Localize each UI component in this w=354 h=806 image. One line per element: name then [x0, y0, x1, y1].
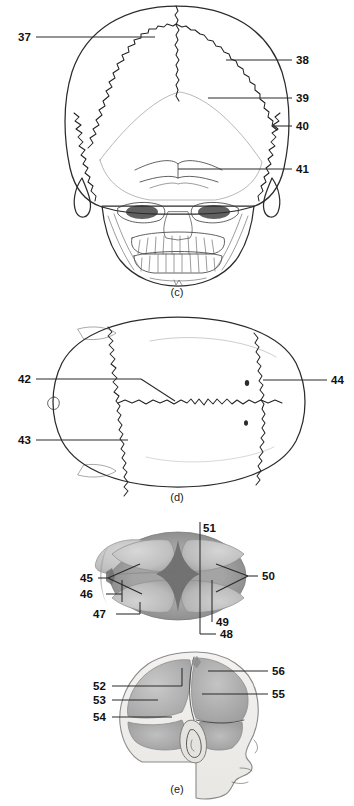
panel-d-illustration: 42 43 44 [0, 305, 354, 510]
label-51: 51 [203, 522, 216, 534]
panel-c-illustration: 37 38 39 40 41 [0, 0, 354, 310]
zygomatic-arch-top [78, 327, 116, 477]
label-39: 39 [296, 92, 309, 104]
panel-c-posterior-skull: 37 38 39 40 41 [0, 0, 354, 310]
label-45: 45 [80, 572, 93, 584]
label-50: 50 [262, 570, 275, 582]
label-49: 49 [216, 616, 229, 628]
label-42: 42 [18, 373, 31, 385]
parietal-foramen-lower [244, 420, 248, 426]
label-41: 41 [296, 163, 309, 175]
label-52: 52 [93, 680, 106, 692]
caption-panel-e: (e) [0, 783, 354, 795]
label-46: 46 [80, 588, 93, 600]
caption-panel-d: (d) [0, 491, 354, 503]
labels-panel-d: 42 43 44 [18, 373, 344, 446]
label-56: 56 [272, 665, 285, 677]
frontal-bone-lateral [128, 660, 191, 718]
label-40: 40 [296, 120, 309, 132]
caption-panel-c: (c) [0, 286, 354, 298]
leader-lines-panel-c [36, 37, 292, 169]
mastoid-process-left [74, 178, 90, 217]
sagittal-suture-superior [118, 399, 282, 405]
facial-skeleton [102, 202, 254, 286]
nose-contour [254, 740, 258, 753]
labels-panel-c: 37 38 39 40 41 [18, 31, 309, 175]
label-48: 48 [220, 628, 233, 640]
label-43: 43 [18, 434, 31, 446]
label-37: 37 [18, 31, 31, 43]
label-55: 55 [272, 688, 285, 700]
lambdoid-suture [88, 24, 277, 148]
label-44: 44 [331, 374, 344, 386]
label-53: 53 [93, 694, 106, 706]
fetal-skull-lateral: 52 53 54 56 55 [93, 652, 285, 799]
coronal-suture [108, 327, 128, 496]
panel-e-illustration: 51 45 46 47 50 49 48 [0, 510, 354, 806]
anatomy-figure: 37 38 39 40 41 (c) [0, 0, 354, 806]
occipital-bone [100, 92, 262, 200]
lambdoid-suture-superior [254, 333, 265, 485]
label-47: 47 [93, 608, 106, 620]
label-38: 38 [296, 54, 309, 66]
mastoid-process-right [263, 178, 279, 217]
panel-d-superior-skull: 42 43 44 [0, 305, 354, 510]
occipital-protuberance [135, 161, 222, 188]
parietal-foramen-upper [245, 380, 249, 386]
panel-e-fetal-skull: 51 45 46 47 50 49 48 [0, 510, 354, 806]
leader-42b [141, 379, 175, 401]
leader-lines-panel-d [36, 379, 327, 440]
sagittal-suture [175, 6, 179, 101]
fetal-skull-superior: 51 45 46 47 50 49 48 [80, 522, 275, 640]
label-54: 54 [93, 711, 106, 723]
